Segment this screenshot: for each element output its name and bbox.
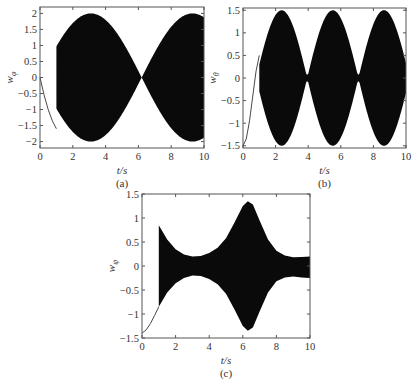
x-tick-label: 4 [103,151,109,162]
panel-b: 1.510.50−0.5−1−1.5 0246810 wθ t/s (b) [206,5,411,190]
x-tick-label: 6 [136,151,141,162]
y-tick-label: −0.5 [221,95,240,106]
x-tick-label: 2 [70,151,75,162]
panel-a: 21.510.50−0.5−1−1.5−2 0246810 wφ t/s (a) [3,7,209,190]
plot-area [142,201,310,333]
oscillation-envelope [159,201,310,331]
y-tick-label: 0 [235,73,240,84]
y-axis-label: wθ [206,72,221,83]
x-tick-label: 10 [305,341,316,352]
x-tick-label: 2 [273,151,278,162]
y-tick-label: 1 [235,27,240,38]
y-tick-label: −1 [229,118,240,129]
x-tick-label: 0 [139,341,144,352]
y-tick-label: 1 [32,40,37,51]
x-axis-label: t/s [117,164,127,176]
x-tick-label: 0 [37,151,42,162]
plot-area [243,10,406,145]
x-tick-label: 4 [207,341,213,352]
y-axis-label: wψ [105,259,120,272]
panel-c: 1.510.50−0.5−1−1.5 0246810 wψ t/s (c) [105,189,315,381]
y-tick-label: −0.5 [120,285,139,296]
y-tick-label: −0.5 [18,88,37,99]
y-axis-label: wφ [3,71,18,83]
x-tick-label: 6 [338,151,343,162]
y-tick-label: −1 [128,309,139,320]
initial-response-curve [40,78,56,129]
x-tick-label: 0 [240,151,245,162]
x-tick-label: 10 [401,151,412,162]
y-tick-label: −1.5 [221,140,240,151]
y-tick-label: 2 [32,8,37,19]
y-tick-label: 1 [134,213,139,224]
y-tick-label: 0.5 [227,50,240,61]
y-tick-label: 0.5 [24,56,37,67]
x-tick-label: 8 [371,151,376,162]
x-tick-label: 4 [306,151,312,162]
y-tick-label: 1.5 [24,24,37,35]
y-tick-label: 0.5 [126,237,139,248]
y-tick-label: −1.5 [18,120,37,131]
panel-caption: (c) [220,367,233,380]
y-tick-label: −1.5 [120,333,139,344]
x-axis-label: t/s [319,164,329,176]
x-axis-label: t/s [221,354,231,366]
oscillation-envelope [259,10,406,145]
figure: 21.510.50−0.5−1−1.5−2 0246810 wφ t/s (a)… [0,0,417,384]
x-tick-label: 2 [173,341,178,352]
initial-response-curve [142,307,159,333]
y-tick-label: 1.5 [126,189,139,200]
x-tick-label: 8 [169,151,174,162]
x-tick-label: 8 [274,341,279,352]
x-tick-label: 10 [199,151,210,162]
y-tick-label: −2 [26,136,37,147]
oscillation-envelope [56,13,204,141]
plot-area [40,13,204,141]
y-tick-label: 1.5 [227,5,240,16]
panel-caption: (b) [318,177,331,190]
x-tick-label: 6 [240,341,245,352]
y-tick-label: 0 [134,261,139,272]
y-tick-label: 0 [32,72,37,83]
y-tick-label: −1 [26,104,37,115]
